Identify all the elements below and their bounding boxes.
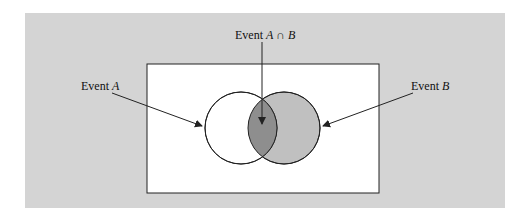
label-var: B [442,79,449,93]
label-event-b: Event B [411,80,449,92]
label-var: A [112,79,119,93]
label-prefix: Event [81,79,112,93]
label-var-b: B [288,28,295,42]
intersection-symbol: ∩ [273,28,288,42]
label-prefix: Event [235,28,266,42]
label-event-a: Event A [81,80,119,92]
label-prefix: Event [411,79,442,93]
label-intersection: Event A ∩ B [235,29,295,41]
